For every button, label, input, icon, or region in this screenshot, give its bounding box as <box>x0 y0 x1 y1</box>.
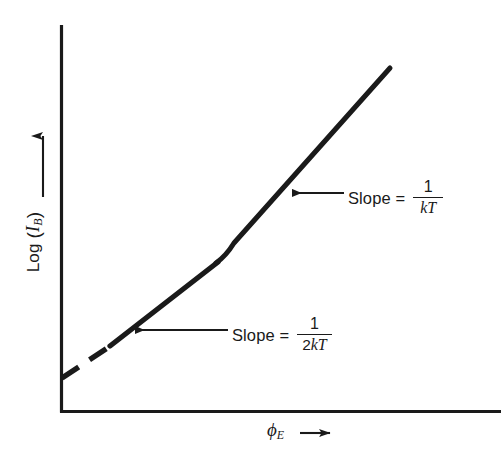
y-axis-label: Log (IB) <box>24 182 44 302</box>
y-axis-label-symbol: I <box>23 226 43 232</box>
y-axis-label-subscript: B <box>31 218 45 226</box>
slope-annotation-upper-fraction: 1 kT <box>413 179 443 217</box>
slope-annotation-lower-denominator-symbols: kT <box>311 336 327 353</box>
figure-container: Log (IB) ϕE Slope = 1 kT Slope = 1 2kT <box>0 0 501 458</box>
curve-solid-lower-slope <box>110 262 218 346</box>
x-axis-label: ϕE <box>267 420 284 441</box>
data-curve <box>62 68 390 378</box>
slope-annotation-lower-label: Slope = <box>232 326 289 345</box>
curve-dashed-extrapolation <box>62 345 112 378</box>
slope-annotation-upper-denominator: kT <box>415 199 441 217</box>
slope-annotation-lower-denominator-coefficient: 2 <box>302 336 311 353</box>
y-axis-label-prefix: Log <box>24 243 43 272</box>
slope-annotation-lower-numerator: 1 <box>304 316 325 333</box>
slope-annotation-lower-fraction: 1 2kT <box>297 316 332 354</box>
fraction-bar <box>297 334 332 336</box>
slope-annotation-upper: Slope = 1 kT <box>348 180 443 218</box>
curve-solid-upper-slope <box>216 68 390 263</box>
slope-annotation-upper-numerator: 1 <box>418 179 439 196</box>
y-axis-label-close-paren: ) <box>23 212 44 219</box>
y-axis-label-open-paren: ( <box>23 232 44 239</box>
slope-annotation-lower-denominator: 2kT <box>297 336 332 354</box>
slope-annotation-lower: Slope = 1 2kT <box>232 317 332 355</box>
fraction-bar <box>413 197 443 199</box>
x-axis-label-symbol: ϕ <box>267 419 277 440</box>
x-axis-label-subscript: E <box>277 428 284 442</box>
plot-canvas <box>0 0 501 458</box>
slope-annotation-upper-label: Slope = <box>348 189 405 208</box>
